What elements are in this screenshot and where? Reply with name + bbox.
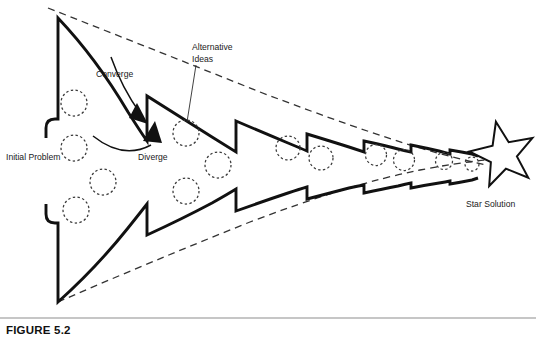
alternative-idea-circle	[205, 152, 231, 178]
alternative-idea-circles	[61, 90, 479, 223]
alternative-idea-circle	[465, 157, 479, 171]
diverge-arrow-line	[93, 136, 151, 151]
alternative-idea-circle	[173, 120, 199, 146]
figure-container: Initial Problem Converge Diverge Alterna…	[0, 0, 536, 342]
lower-sawtooth-band	[46, 178, 478, 302]
alternative-idea-circle	[63, 197, 89, 223]
label-star-solution: Star Solution	[466, 199, 515, 209]
upper-sawtooth-band	[46, 18, 478, 156]
alternative-idea-circle	[309, 146, 333, 170]
alternative-ideas-leader-line	[187, 65, 196, 122]
label-converge: Converge	[96, 69, 133, 79]
lower-envelope-dashed-curve	[58, 160, 486, 302]
label-diverge: Diverge	[138, 152, 168, 162]
label-alternative-ideas-line1: Alternative	[192, 42, 233, 52]
label-alternative-ideas-line2: Ideas	[192, 54, 213, 64]
envelope-group	[48, 8, 486, 302]
alternative-idea-circle	[61, 90, 87, 116]
sawtooth-band-group	[46, 18, 478, 302]
alternative-idea-circle	[61, 135, 87, 161]
converge-arrow-head	[129, 103, 148, 124]
alternative-idea-circle	[173, 178, 199, 204]
converge-arrow-line	[111, 57, 140, 113]
star-solution-shape	[469, 122, 532, 186]
label-initial-problem: Initial Problem	[6, 152, 60, 162]
figure-caption: FIGURE 5.2	[6, 324, 71, 336]
converge-diverge-diagram: Initial Problem Converge Diverge Alterna…	[0, 0, 536, 342]
alternative-idea-circle	[90, 169, 116, 195]
alternative-idea-circle	[366, 145, 387, 166]
